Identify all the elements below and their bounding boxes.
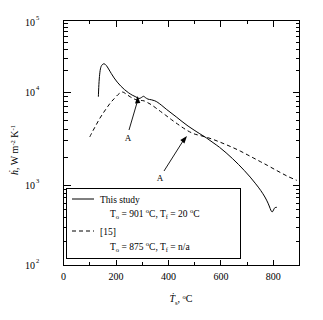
legend-params-this-study: To = 901 oC, Tf = 20 oC <box>110 207 200 220</box>
x-axis-title: Ṫs, oC <box>169 293 192 306</box>
y-ticklabel-1e2-exp: 2 <box>36 257 39 264</box>
annotation-A-2: A <box>157 136 187 183</box>
legend-label-this-study: This study <box>100 195 140 205</box>
legend-T0-value-1: = 901 <box>119 209 146 219</box>
legend: This study To = 901 oC, Tf = 20 oC [15] … <box>67 189 241 259</box>
legend-Tf-unit-1: C <box>193 209 199 219</box>
x-axis-ticklabels: 0 200 400 600 800 <box>61 271 281 282</box>
legend-Tf-value-1: = 20 <box>168 209 190 219</box>
svg-text:Ṫs, oC: Ṫs, oC <box>169 293 192 306</box>
svg-text:ḣ, W m-2 K-1: ḣ, W m-2 K-1 <box>9 125 21 175</box>
annotations: A A <box>125 96 187 183</box>
y-ticklabel-1e5-exp: 5 <box>36 14 39 21</box>
y-ticklabel-1e4-exp: 4 <box>36 84 40 91</box>
y-ticklabel-1e4: 10 <box>25 87 35 98</box>
x-ticklabel-400: 400 <box>161 271 176 282</box>
annotation-arrowhead-2 <box>180 136 187 143</box>
y-axis-title-exp2: -1 <box>9 125 16 130</box>
y-minor-ticks-d3 <box>64 96 300 157</box>
legend-label-ref15: [15] <box>100 227 116 237</box>
chart-svg: 10 5 10 4 10 3 10 2 ḣ, W m-2 K-1 <box>0 0 323 320</box>
y-ticklabel-1e3: 10 <box>25 180 35 191</box>
series-line-ref15 <box>90 92 297 180</box>
y-axis-title: ḣ, W m-2 K-1 <box>9 125 21 175</box>
annotation-A-1: A <box>125 96 141 143</box>
y-minor-ticks-d4 <box>64 24 300 71</box>
legend-T0-unit-1: C, <box>149 209 160 219</box>
annotation-label-1: A <box>125 133 132 143</box>
y-axis-ticklabels: 10 5 10 4 10 3 10 2 <box>25 14 40 271</box>
y-axis-title-rest: , W m <box>9 145 20 170</box>
y-ticklabel-1e3-exp: 3 <box>36 177 39 184</box>
figure-container: 10 5 10 4 10 3 10 2 ḣ, W m-2 K-1 <box>0 0 323 320</box>
x-ticklabel-800: 800 <box>266 271 281 282</box>
legend-T0-value-2: = 875 <box>119 242 146 252</box>
x-ticklabel-0: 0 <box>61 271 66 282</box>
annotation-arrow-2 <box>164 141 183 171</box>
x-ticklabel-600: 600 <box>213 271 228 282</box>
annotation-label-2: A <box>157 173 164 183</box>
legend-params-ref15: To = 875 oC, Tf = n/a <box>110 240 190 253</box>
x-ticklabel-200: 200 <box>109 271 124 282</box>
legend-Tf-value-2: = n/a <box>168 242 190 252</box>
annotation-arrow-1 <box>129 101 138 130</box>
legend-T0-unit-2: C, <box>149 242 160 252</box>
y-ticklabel-1e2: 10 <box>25 260 35 271</box>
y-ticklabel-1e5: 10 <box>25 17 35 28</box>
